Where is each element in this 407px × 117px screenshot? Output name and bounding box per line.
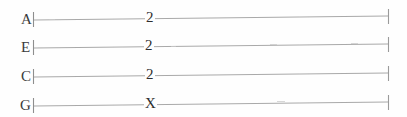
string-label-c: C	[21, 69, 31, 84]
string-line-c	[34, 73, 388, 77]
fret-mark-string-c[interactable]: 2	[145, 67, 155, 82]
string-line-a	[34, 16, 388, 20]
scan-speck	[49, 19, 55, 20]
string-label-e: E	[21, 40, 30, 55]
scan-speck	[38, 47, 43, 48]
string-label-a: A	[21, 12, 32, 27]
tablature-staff-lines	[0, 0, 407, 117]
scan-speck	[270, 44, 277, 45]
fret-mark-string-e[interactable]: 2	[144, 38, 154, 53]
string-label-g: G	[20, 98, 31, 113]
tablature-sheet: A E C G 2 2 2 X	[0, 0, 407, 117]
string-line-g	[34, 102, 388, 106]
fret-mark-string-a[interactable]: 2	[145, 10, 155, 25]
mute-mark-string-g[interactable]: X	[144, 96, 157, 111]
string-line-e	[34, 44, 388, 48]
scan-speck	[171, 46, 176, 47]
scan-speck	[277, 101, 285, 102]
scan-speck	[351, 43, 358, 44]
